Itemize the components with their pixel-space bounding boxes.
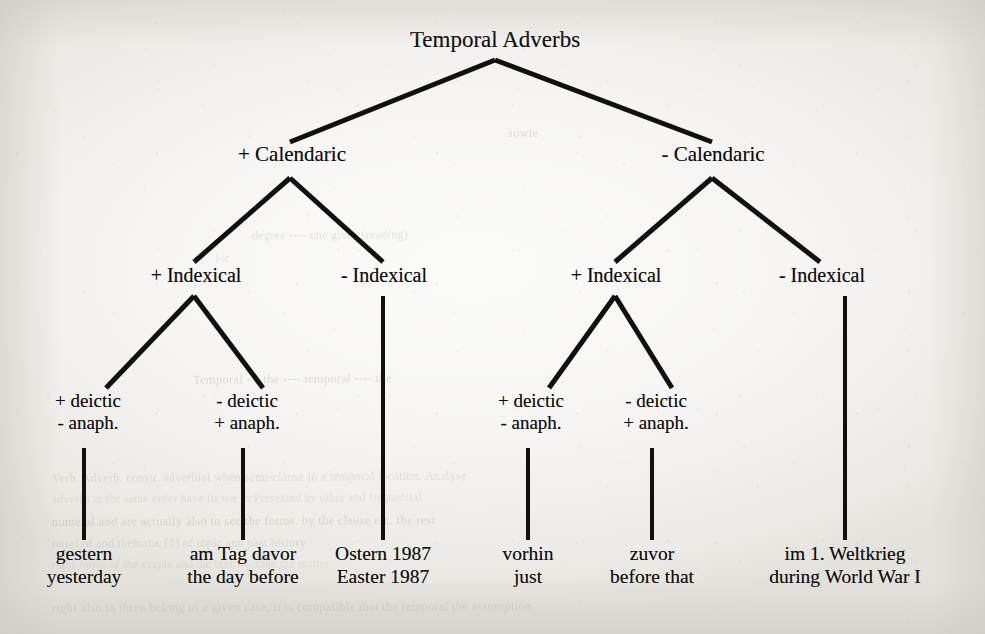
node-deictic-4[interactable]: - deictic + anaph. [623, 390, 689, 435]
leaf-zuvor-german: zuvor [610, 542, 694, 565]
node-minus-calendaric-label: - Calendaric [661, 142, 764, 166]
leaf-ostern-1987-english: Easter 1987 [335, 565, 431, 588]
node-indexical-2-label: - Indexical [341, 264, 427, 286]
node-deictic-3[interactable]: + deictic - anaph. [498, 390, 564, 435]
leaf-am-tag-davor-english: the day before [187, 565, 299, 588]
node-indexical-4[interactable]: - Indexical [779, 264, 865, 288]
node-root-label: Temporal Adverbs [410, 27, 580, 52]
leaf-im-1-weltkrieg-german: im 1. Weltkrieg [769, 542, 921, 565]
node-deictic-3-line2: - anaph. [498, 412, 564, 434]
node-indexical-1[interactable]: + Indexical [151, 264, 242, 288]
node-root[interactable]: Temporal Adverbs [410, 26, 580, 53]
leaf-gestern-english: yesterday [47, 565, 122, 588]
leaf-im-1-weltkrieg-english: during World War I [769, 565, 921, 588]
node-indexical-4-label: - Indexical [779, 264, 865, 286]
node-plus-calendaric-label: + Calendaric [238, 142, 346, 166]
leaf-vorhin-english: just [503, 565, 554, 588]
node-indexical-3[interactable]: + Indexical [571, 264, 662, 288]
node-indexical-2[interactable]: - Indexical [341, 264, 427, 288]
leaf-zuvor[interactable]: zuvor before that [610, 542, 694, 588]
leaf-ostern-1987[interactable]: Ostern 1987 Easter 1987 [335, 542, 431, 588]
node-deictic-1-line2: - anaph. [55, 412, 121, 434]
leaf-ostern-1987-german: Ostern 1987 [335, 542, 431, 565]
leaf-im-1-weltkrieg[interactable]: im 1. Weltkrieg during World War I [769, 542, 921, 588]
node-minus-calendaric[interactable]: - Calendaric [661, 142, 764, 167]
node-plus-calendaric[interactable]: + Calendaric [238, 142, 346, 167]
leaf-am-tag-davor-german: am Tag davor [187, 542, 299, 565]
node-deictic-2-line2: + anaph. [214, 412, 280, 434]
node-deictic-2[interactable]: - deictic + anaph. [214, 390, 280, 435]
node-deictic-1[interactable]: + deictic - anaph. [55, 390, 121, 435]
leaf-am-tag-davor[interactable]: am Tag davor the day before [187, 542, 299, 588]
node-indexical-1-label: + Indexical [151, 264, 242, 286]
node-deictic-3-line1: + deictic [498, 390, 564, 412]
leaf-gestern[interactable]: gestern yesterday [47, 542, 122, 588]
leaf-vorhin[interactable]: vorhin just [503, 542, 554, 588]
leaf-zuvor-english: before that [610, 565, 694, 588]
node-deictic-4-line1: - deictic [623, 390, 689, 412]
node-deictic-2-line1: - deictic [214, 390, 280, 412]
node-deictic-4-line2: + anaph. [623, 412, 689, 434]
node-deictic-1-line1: + deictic [55, 390, 121, 412]
leaf-gestern-german: gestern [47, 542, 122, 565]
leaf-vorhin-german: vorhin [503, 542, 554, 565]
node-indexical-3-label: + Indexical [571, 264, 662, 286]
scanned-page-background [0, 0, 985, 634]
